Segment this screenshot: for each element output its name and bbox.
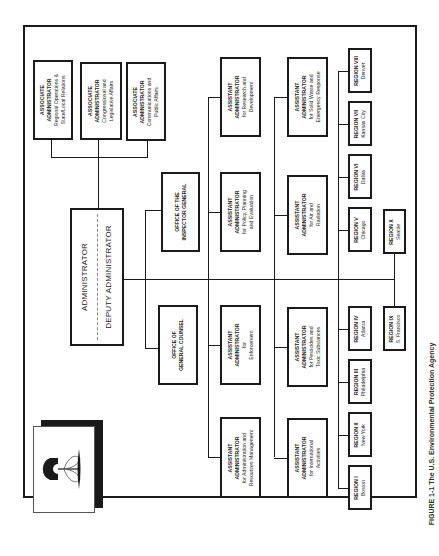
region-viii: REGION VIIIDenver [348,48,372,93]
region-x-ix-stem [394,254,395,306]
column2-branch [274,97,275,457]
reg-stub-6 [338,177,348,178]
col1-stub-3 [208,345,220,346]
region-iii: REGION IIIPhiladelphia [348,359,372,404]
aa-administration-resources: ASSISTANTADMINISTRATORfor Administration… [220,417,261,498]
aa-policy-planning: ASSISTANTADMINISTRATORfor Policy, Planni… [220,172,261,252]
admin-divider [97,214,98,340]
aa-solid-waste: ASSISTANTADMINISTRATORfor Solid Waste an… [287,57,328,137]
associate-3-stem [147,141,148,157]
associate-regional-ops: ASSOCIATEADMINISTRATORRegional Operation… [33,60,73,140]
region-vii: REGION VIIKansas City [348,101,372,146]
associates-bus [51,157,148,158]
associate-communications: ASSOCIATEADMINISTRATORCommunications and… [126,62,166,141]
col2-stub-2 [274,215,287,216]
region-v: REGION VChicago [348,207,372,252]
column1-branch [208,97,209,457]
reg-stub-1 [338,488,348,489]
region-ii: REGION IINew York [348,412,372,457]
region-x: REGION XSeattle [383,209,406,254]
region-vi: REGION VIDallas [348,154,372,199]
deputy-administrator-label: DEPUTY ADMINISTRATOR [103,225,115,329]
logo-card [33,426,95,513]
epa-logo [33,418,103,515]
aa-enforcement: ASSISTANTADMINISTRATORforEnforcement [220,305,261,385]
col2-stub-1 [274,97,287,98]
col2-stub-3 [274,347,287,348]
ogc-stub [145,348,158,349]
oig-stub [145,210,161,211]
col2-stub-4 [274,458,287,459]
aa-research-development: ASSISTANTADMINISTRATORfor Research andDe… [220,57,261,137]
col1-stub-1 [208,97,220,98]
regions-branch [338,71,339,488]
administrator-label: ADMINISTRATOR [79,243,91,311]
associate-2-stem [98,140,99,208]
region-ix: REGION IXS. Francisco [383,306,406,351]
col1-stub-2 [208,212,220,213]
region-iv: REGION IVAtlanta [348,306,372,351]
aa-international: ASSISTANTADMINISTRATORfor InternationalA… [287,418,328,498]
epa-flower-icon [34,427,94,512]
col1-stub-4 [208,457,220,458]
administrator-box: ADMINISTRATOR DEPUTY ADMINISTRATOR [70,208,124,346]
reg-stub-4 [338,329,348,330]
reg-stub-8 [338,71,348,72]
figure-caption: FIGURE 1-1 The U.S. Environmental Protec… [423,0,439,556]
associate-1-stem [51,140,52,157]
office-general-counsel: OFFICE OFGENERAL COUNSEL [158,305,198,385]
reg-stub-5 [338,230,348,231]
office-inspector-general: OFFICE OF THEINSPECTOR GENERAL [161,172,200,252]
aa-pesticides-toxic: ASSISTANTADMINISTRATORfor Pesticides and… [287,307,328,387]
reg-stub-7 [338,124,348,125]
region-i: REGION IBoston [348,465,372,510]
aa-air-radiation: ASSISTANTADMINISTRATORfor Air andRadiati… [287,175,328,255]
main-trunk [124,279,395,280]
reg-stub-2 [338,435,348,436]
reg-stub-3 [338,382,348,383]
associate-congressional: ASSOCIATEADMINISTRATORCongressional andL… [80,62,122,140]
offices-branch [145,210,146,348]
